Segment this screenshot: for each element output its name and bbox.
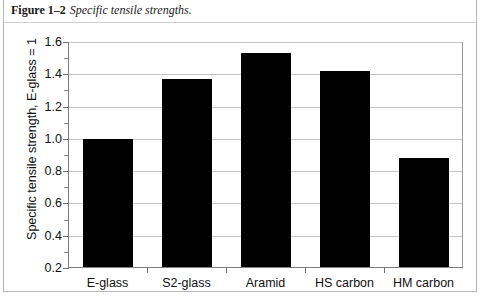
y-axis-tick-label: 0.6 bbox=[28, 197, 62, 209]
x-axis-tick-label: HS carbon bbox=[305, 276, 384, 290]
bar-chart: Specific tensile strength, E-glass = 1 1… bbox=[0, 24, 483, 290]
figure-caption: Figure 1–2Specific tensile strengths. bbox=[11, 3, 192, 18]
y-axis-tick-label: 1.6 bbox=[28, 36, 62, 48]
gridline bbox=[69, 42, 462, 43]
y-axis-tick-label: 0.2 bbox=[28, 262, 62, 274]
bar bbox=[162, 79, 212, 268]
y-axis-tick-label: 1.0 bbox=[28, 133, 62, 145]
bar bbox=[83, 139, 133, 268]
y-axis-tick-label: 0.8 bbox=[28, 165, 62, 177]
y-axis-tick-label: 0.4 bbox=[28, 230, 62, 242]
x-axis-tick-label: Aramid bbox=[226, 276, 305, 290]
bar bbox=[241, 53, 291, 268]
figure-title: Specific tensile strengths. bbox=[70, 3, 192, 17]
y-axis-tick-label: 1.2 bbox=[28, 101, 62, 113]
plot-right-border bbox=[462, 42, 463, 268]
caption-divider bbox=[4, 22, 476, 23]
y-axis-line bbox=[68, 42, 69, 268]
plot-area: E-glassS2-glassAramidHS carbonHM carbon bbox=[68, 42, 463, 268]
x-axis-tick-label: HM carbon bbox=[384, 276, 463, 290]
bar bbox=[399, 158, 449, 268]
figure-number: Figure 1–2 bbox=[11, 3, 66, 17]
y-axis-tick-labels: 1.61.41.21.00.80.60.40.2 bbox=[26, 42, 62, 268]
figure-container: Figure 1–2Specific tensile strengths. Sp… bbox=[0, 0, 483, 302]
y-axis-tick-label: 1.4 bbox=[28, 68, 62, 80]
y-axis-tick bbox=[63, 268, 69, 269]
x-axis-tick-label: E-glass bbox=[68, 276, 147, 290]
x-axis-tick-label: S2-glass bbox=[147, 276, 226, 290]
bar bbox=[320, 71, 370, 268]
x-axis-line bbox=[68, 267, 463, 268]
